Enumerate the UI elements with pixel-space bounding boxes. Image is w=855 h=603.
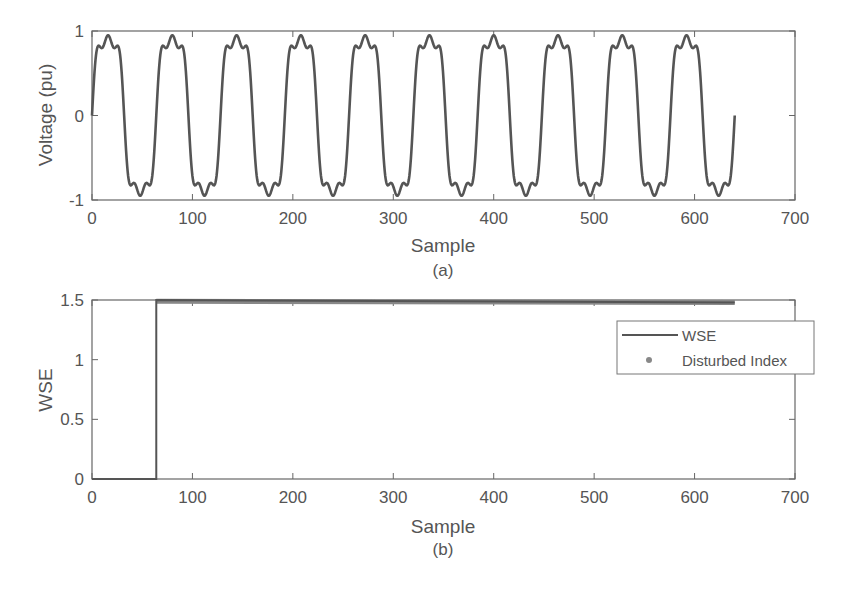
legend: WSE Disturbed Index (617, 321, 814, 374)
caption-a: (a) (433, 261, 454, 280)
y-tick-label: -1 (69, 191, 84, 210)
caption-b: (b) (433, 540, 454, 559)
y-axis-label-a: Voltage (pu) (35, 64, 56, 166)
y-tick-label: 1 (75, 351, 84, 370)
y-tick-label: 0 (75, 470, 84, 489)
x-tick-label: 200 (279, 488, 307, 507)
figure: 0100200300400500600700-101 Voltage (pu) … (0, 0, 855, 603)
legend-label-disturbed-index: Disturbed Index (682, 352, 788, 369)
y-tick-label: 0 (75, 107, 84, 126)
x-tick-label: 600 (680, 209, 708, 228)
plot-area-a (92, 31, 795, 200)
x-tick-label: 0 (87, 209, 96, 228)
x-tick-label: 100 (178, 209, 206, 228)
x-tick-label: 500 (580, 209, 608, 228)
x-tick-label: 300 (379, 209, 407, 228)
x-tick-label: 500 (580, 488, 608, 507)
x-tick-label: 700 (781, 209, 809, 228)
x-tick-label: 300 (379, 488, 407, 507)
x-tick-label: 400 (480, 209, 508, 228)
x-tick-label: 100 (178, 488, 206, 507)
x-tick-label: 0 (87, 488, 96, 507)
y-tick-label: 1.5 (60, 291, 84, 310)
x-tick-label: 700 (781, 488, 809, 507)
legend-label-wse: WSE (682, 327, 716, 344)
y-tick-label: 1 (75, 22, 84, 41)
y-tick-label: 0.5 (60, 410, 84, 429)
legend-dot-swatch (646, 357, 652, 363)
x-tick-label: 600 (680, 488, 708, 507)
x-axis-label-b: Sample (411, 516, 475, 537)
panel-b-wse-plot: 010020030040050060070000.511.5 WSE Sampl… (35, 291, 814, 559)
y-axis-label-b: WSE (35, 368, 56, 411)
x-tick-label: 200 (279, 209, 307, 228)
x-tick-label: 400 (480, 488, 508, 507)
panel-a-voltage-plot: 0100200300400500600700-101 Voltage (pu) … (35, 22, 809, 280)
x-axis-label-a: Sample (411, 235, 475, 256)
